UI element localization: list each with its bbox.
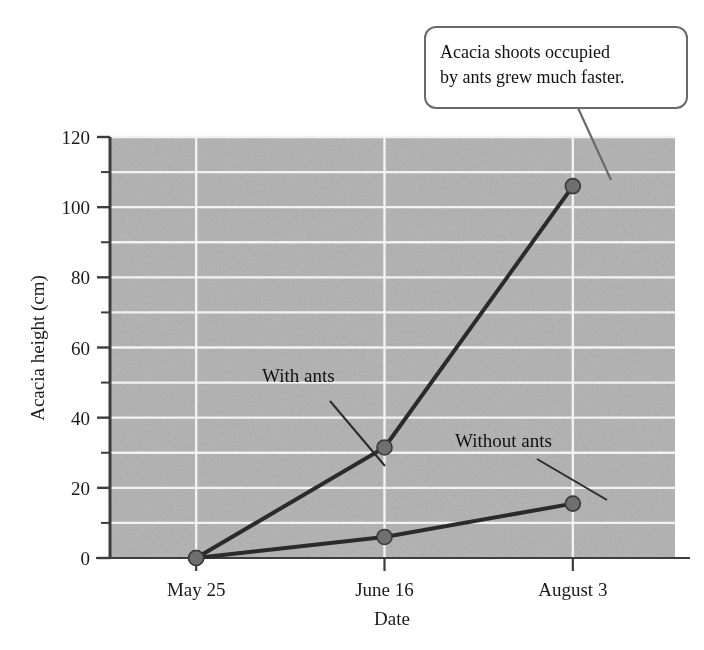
data-point-without-ants-0 [189, 551, 204, 566]
x-axis-title: Date [374, 608, 410, 629]
y-axis-tick-labels: 020406080100120 [62, 127, 91, 569]
y-tick-label: 80 [71, 267, 90, 288]
data-point-with-ants-2 [565, 179, 580, 194]
y-axis-ticks [97, 137, 110, 558]
annotation-without-ants: Without ants [455, 430, 552, 451]
x-category-label: August 3 [538, 579, 607, 600]
x-axis-category-labels: May 25June 16August 3 [167, 579, 608, 600]
y-tick-label: 40 [71, 408, 90, 429]
data-point-without-ants-1 [377, 529, 392, 544]
data-point-without-ants-2 [565, 496, 580, 511]
y-tick-label: 20 [71, 478, 90, 499]
x-axis-ticks [196, 558, 573, 571]
callout-text-line-1: Acacia shoots occupied [440, 42, 610, 62]
y-tick-label: 60 [71, 338, 90, 359]
chart-figure: 020406080100120 May 25June 16August 3 Ac… [0, 0, 704, 650]
x-category-label: June 16 [355, 579, 414, 600]
x-category-label: May 25 [167, 579, 226, 600]
y-tick-label: 0 [81, 548, 91, 569]
callout-text-line-2: by ants grew much faster. [440, 67, 624, 87]
annotation-with-ants: With ants [262, 365, 335, 386]
y-tick-label: 100 [62, 197, 91, 218]
data-point-with-ants-1 [377, 440, 392, 455]
acacia-height-line-chart: 020406080100120 May 25June 16August 3 Ac… [0, 0, 704, 650]
y-tick-label: 120 [62, 127, 91, 148]
y-axis-title: Acacia height (cm) [27, 275, 49, 421]
